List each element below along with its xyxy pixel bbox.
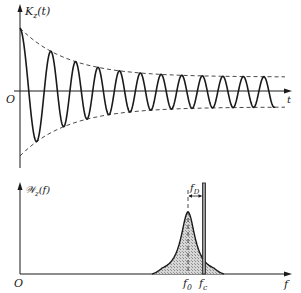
bottom-origin-label: O bbox=[14, 278, 23, 289]
bottom-y-axis-arrow-icon bbox=[18, 182, 23, 190]
top-y-label-arg: (t) bbox=[37, 5, 50, 18]
fd-label: fD bbox=[190, 183, 199, 196]
spectral-density-chart bbox=[18, 182, 293, 277]
f0-label: f0 bbox=[183, 278, 192, 292]
top-y-axis-label: Kz(t) bbox=[25, 6, 50, 20]
carrier-spectral-line bbox=[203, 183, 206, 274]
fc-label: fc bbox=[199, 278, 207, 292]
top-y-label-main: K bbox=[25, 5, 33, 18]
upper-envelope bbox=[20, 28, 285, 77]
bottom-f-axis-arrow-icon bbox=[284, 272, 292, 277]
top-y-axis-arrow-icon bbox=[18, 4, 23, 12]
top-t-axis-arrow-icon bbox=[284, 89, 292, 94]
top-origin-label: O bbox=[6, 94, 15, 105]
top-t-axis-label: t bbox=[287, 95, 291, 105]
bottom-y-axis-label: 𝒲z(f) bbox=[25, 185, 50, 198]
fc-label-sub: c bbox=[203, 283, 207, 292]
bottom-y-label-main: 𝒲 bbox=[25, 184, 35, 195]
fd-label-sub: D bbox=[194, 188, 200, 196]
bottom-f-axis-label: f bbox=[284, 279, 288, 290]
figure-canvas bbox=[0, 0, 301, 293]
bottom-y-label-arg: (f) bbox=[39, 184, 51, 195]
f0-label-sub: 0 bbox=[187, 283, 192, 292]
autocorrelation-chart bbox=[14, 4, 292, 168]
autocorrelation-curve bbox=[20, 28, 275, 142]
